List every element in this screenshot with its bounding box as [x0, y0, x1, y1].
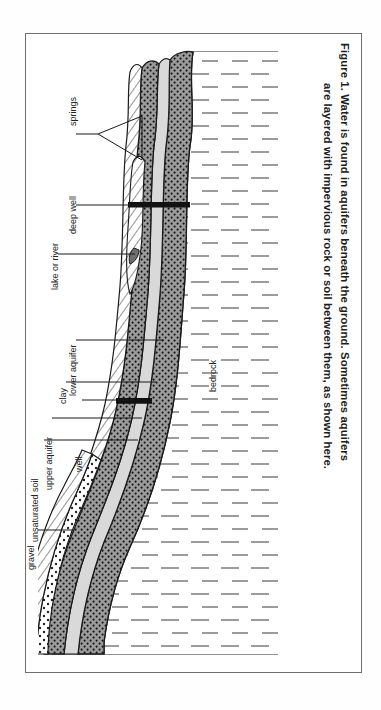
caption-line-1: Figure 1. Water is found in aquifers ben… [336, 43, 353, 461]
label-lake-or-river: lake or river [50, 243, 60, 290]
label-springs: springs [68, 97, 78, 126]
label-unsaturated-soil: unsaturated soil [30, 478, 40, 542]
figure-page: springs deep well lake or river lower aq… [0, 0, 381, 710]
label-upper-aquifer: upper aquifer [44, 437, 54, 490]
label-well: well [74, 456, 84, 472]
figure-caption: Figure 1. Water is found in aquifers ben… [291, 43, 353, 663]
well-symbol [116, 398, 152, 404]
caption-line-2: are layered with impervious rock or soil… [319, 43, 336, 469]
label-deep-well: deep well [68, 196, 78, 234]
label-lower-aquifer: lower aquifer [68, 344, 78, 396]
label-gravel: gravel [26, 545, 36, 570]
aquifer-cross-section-diagram: springs deep well lake or river lower aq… [38, 42, 278, 664]
label-bedrock: bedrock [208, 360, 218, 392]
label-clay: clay [58, 388, 68, 404]
